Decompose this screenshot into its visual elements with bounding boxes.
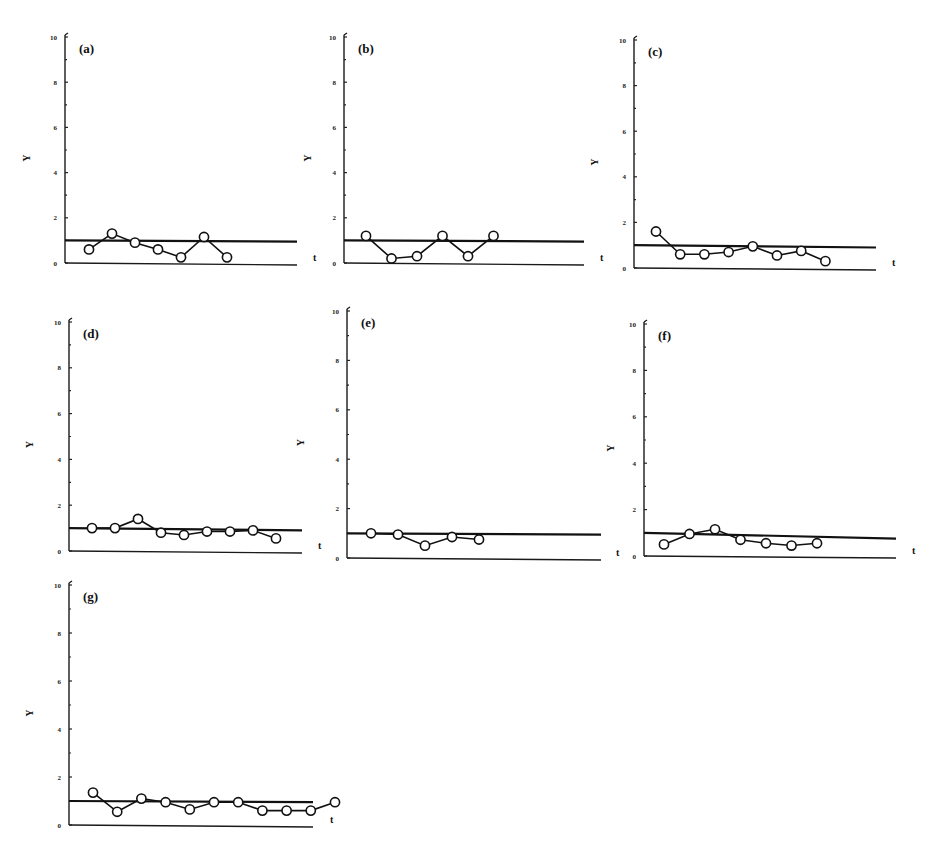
y-axis-cap — [644, 320, 647, 322]
x-axis-line — [69, 551, 302, 553]
data-point — [87, 524, 96, 533]
panel-label: (e) — [361, 315, 375, 330]
y-tick-label: 2 — [54, 214, 58, 222]
y-axis-title: Y — [302, 154, 313, 162]
y-tick-label: 0 — [333, 260, 337, 268]
y-tick-label: 2 — [336, 505, 340, 513]
data-point — [659, 540, 668, 549]
panel-label: (c) — [648, 44, 662, 59]
data-point — [463, 252, 472, 261]
y-tick-label: 4 — [58, 726, 62, 734]
x-axis-title: t — [912, 545, 916, 556]
x-axis-title: t — [892, 257, 896, 268]
reference-line — [344, 240, 584, 241]
y-tick-label: 8 — [336, 357, 340, 365]
data-point — [724, 247, 733, 256]
y-tick-label: 10 — [54, 319, 62, 327]
x-axis-line — [634, 268, 876, 270]
x-axis-title: t — [313, 252, 317, 263]
data-point — [133, 514, 142, 523]
x-axis-line — [644, 556, 896, 558]
data-point — [700, 250, 709, 259]
panel-label: (d) — [83, 326, 99, 341]
y-tick-label: 2 — [623, 219, 627, 227]
data-point — [676, 250, 685, 259]
data-point — [330, 798, 339, 807]
y-axis-cap — [65, 33, 68, 35]
figure-canvas: 0246810Yt(a)0246810Yt(b)0246810Yt(c)0246… — [0, 0, 937, 852]
x-axis-title: t — [330, 814, 334, 825]
series-line — [366, 236, 494, 259]
data-point — [113, 807, 122, 816]
data-point — [387, 254, 396, 263]
data-point — [393, 530, 402, 539]
data-point — [736, 535, 745, 544]
y-axis-title: Y — [589, 158, 600, 166]
y-axis-title: Y — [295, 438, 306, 446]
x-axis-line — [344, 263, 584, 265]
data-point — [489, 231, 498, 240]
chart-panel: 0246810Yt(e) — [295, 307, 620, 563]
chart-panel: 0246810Yt(g) — [24, 581, 340, 830]
data-point — [209, 798, 218, 807]
y-tick-label: 8 — [58, 630, 62, 638]
y-tick-label: 8 — [633, 367, 637, 375]
y-tick-label: 0 — [623, 265, 627, 273]
data-point — [156, 528, 165, 537]
data-point — [88, 788, 97, 797]
data-point — [225, 527, 234, 536]
y-axis-cap — [69, 581, 72, 583]
chart-panel: 0246810Yt(a) — [21, 33, 317, 268]
y-tick-label: 10 — [329, 34, 337, 42]
y-axis-title: Y — [21, 154, 32, 162]
data-point — [366, 529, 375, 538]
chart-panel: 0246810Yt(f) — [605, 320, 916, 561]
data-point — [685, 529, 694, 538]
y-tick-label: 6 — [333, 124, 337, 132]
y-tick-label: 6 — [54, 124, 58, 132]
y-tick-label: 0 — [58, 548, 62, 556]
y-tick-label: 0 — [633, 553, 637, 561]
y-tick-label: 2 — [333, 214, 337, 222]
y-tick-label: 10 — [619, 37, 627, 45]
y-tick-label: 8 — [623, 82, 627, 90]
data-point — [258, 806, 267, 815]
data-point — [438, 231, 447, 240]
data-point — [748, 242, 757, 251]
y-tick-label: 8 — [333, 79, 337, 87]
data-point — [420, 541, 429, 550]
y-tick-label: 0 — [54, 260, 58, 268]
data-point — [447, 532, 456, 541]
data-point — [271, 534, 280, 543]
x-axis-title: t — [318, 540, 322, 551]
panel-label: (a) — [79, 41, 94, 56]
y-tick-label: 4 — [633, 460, 637, 468]
data-point — [797, 246, 806, 255]
y-tick-label: 2 — [58, 502, 62, 510]
y-tick-label: 4 — [58, 456, 62, 464]
y-tick-label: 6 — [58, 410, 62, 418]
data-point — [787, 541, 796, 550]
data-point — [248, 526, 257, 535]
y-tick-label: 4 — [623, 173, 627, 181]
y-tick-label: 10 — [629, 321, 637, 329]
y-tick-label: 4 — [336, 456, 340, 464]
data-point — [821, 257, 830, 266]
y-axis-title: Y — [605, 444, 616, 452]
y-tick-label: 6 — [633, 413, 637, 421]
y-tick-label: 2 — [633, 506, 637, 514]
data-point — [84, 245, 93, 254]
chart-panel: 0246810Yt(d) — [24, 318, 322, 556]
chart-panel: 0246810Yt(c) — [589, 36, 896, 273]
data-point — [179, 530, 188, 539]
y-tick-label: 8 — [54, 79, 58, 87]
data-point — [153, 245, 162, 254]
data-point — [772, 251, 781, 260]
data-point — [161, 798, 170, 807]
y-tick-label: 8 — [58, 364, 62, 372]
y-tick-label: 6 — [336, 406, 340, 414]
data-point — [474, 535, 483, 544]
data-point — [222, 253, 231, 262]
x-axis-title: t — [616, 547, 620, 558]
y-tick-label: 10 — [54, 582, 62, 590]
